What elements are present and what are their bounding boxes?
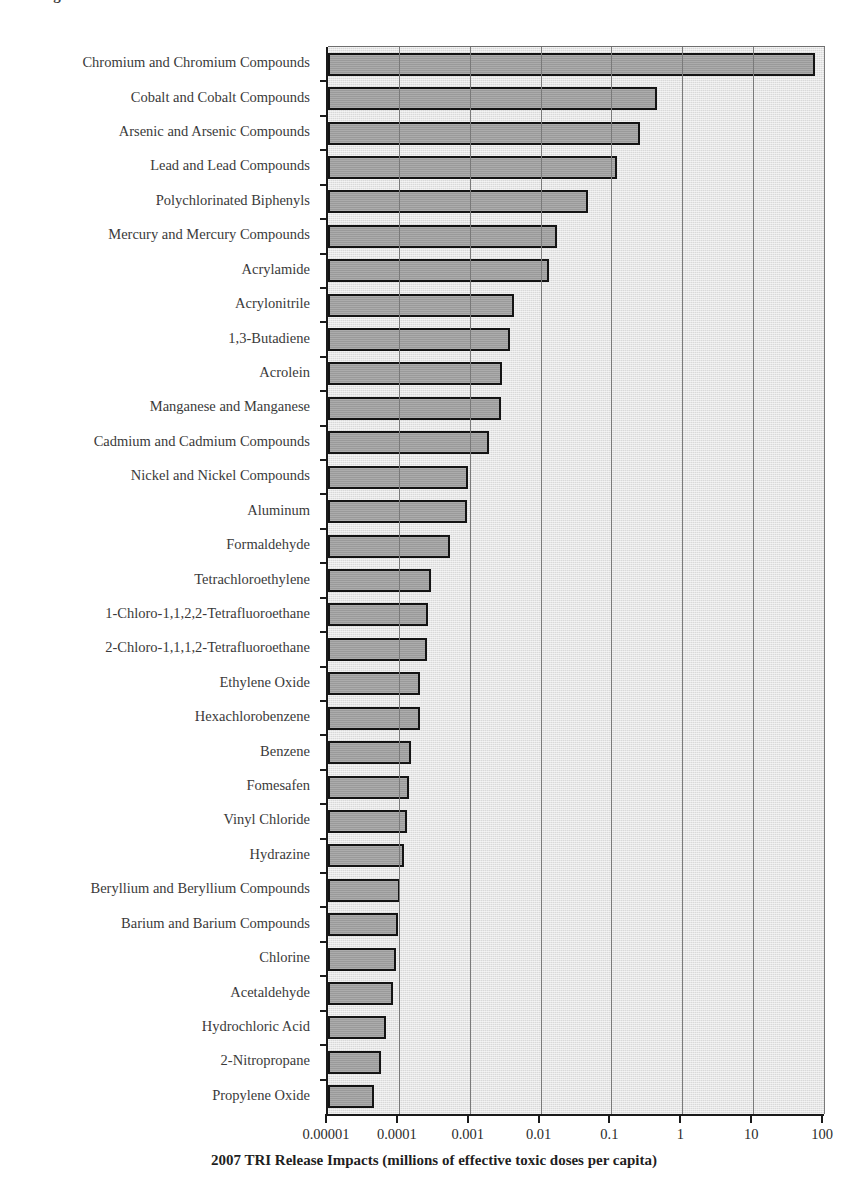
x-axis-tick-label: 10 xyxy=(744,1126,759,1143)
bar xyxy=(328,259,549,282)
category-axis-tick xyxy=(320,287,326,289)
gridline xyxy=(470,47,471,1114)
category-label: Propylene Oxide xyxy=(212,1088,310,1103)
gridline xyxy=(399,47,400,1114)
bar-row xyxy=(328,431,824,454)
bar-row xyxy=(328,466,824,489)
bar-row xyxy=(328,844,824,867)
bar-row xyxy=(328,225,824,248)
x-axis-tick xyxy=(821,1114,823,1123)
bar-row xyxy=(328,1016,824,1039)
bar-row xyxy=(328,810,824,833)
x-axis-title: 2007 TRI Release Impacts (millions of ef… xyxy=(0,1152,868,1169)
bar xyxy=(328,122,640,145)
bar-row xyxy=(328,603,824,626)
bar xyxy=(328,1085,374,1108)
bar xyxy=(328,879,400,902)
category-label: Formaldehyde xyxy=(226,537,310,552)
bar xyxy=(328,672,420,695)
category-label: Ethylene Oxide xyxy=(219,675,310,690)
category-axis-tick xyxy=(320,253,326,255)
category-axis-tick xyxy=(320,1044,326,1046)
bar xyxy=(328,948,396,971)
x-axis-tick xyxy=(467,1114,469,1123)
bar-row xyxy=(328,707,824,730)
category-label: Vinyl Chloride xyxy=(223,812,310,827)
category-label: Fomesafen xyxy=(246,778,310,793)
bar-row xyxy=(328,982,824,1005)
category-axis-tick xyxy=(320,906,326,908)
bar xyxy=(328,844,404,867)
bar xyxy=(328,603,428,626)
bar xyxy=(328,913,398,936)
bar xyxy=(328,53,815,76)
category-axis-tick xyxy=(320,528,326,530)
x-axis-tick xyxy=(750,1114,752,1123)
category-axis-tick xyxy=(320,769,326,771)
category-label: Tetrachloroethylene xyxy=(194,572,310,587)
gridline xyxy=(753,47,754,1114)
bar xyxy=(328,397,501,420)
x-axis-tick xyxy=(679,1114,681,1123)
category-label: Manganese and Manganese xyxy=(150,399,310,414)
bar-row xyxy=(328,362,824,385)
bar-row xyxy=(328,190,824,213)
bar-row xyxy=(328,569,824,592)
category-label: 1-Chloro-1,1,2,2-Tetrafluoroethane xyxy=(105,606,310,621)
bar xyxy=(328,294,514,317)
category-axis-tick xyxy=(320,115,326,117)
category-axis-tick xyxy=(320,597,326,599)
bar xyxy=(328,776,409,799)
category-axis-tick xyxy=(320,218,326,220)
category-label: Chlorine xyxy=(259,950,310,965)
category-label: Polychlorinated Biphenyls xyxy=(156,193,310,208)
x-axis-tick-label: 0.01 xyxy=(526,1126,551,1143)
bar-row xyxy=(328,776,824,799)
category-label: Chromium and Chromium Compounds xyxy=(82,55,310,70)
bar-row xyxy=(328,1051,824,1074)
bar-row xyxy=(328,535,824,558)
bar-row xyxy=(328,879,824,902)
category-axis-tick xyxy=(320,425,326,427)
bar xyxy=(328,156,617,179)
bar xyxy=(328,810,407,833)
bar xyxy=(328,431,489,454)
x-axis-tick-label: 0.00001 xyxy=(302,1126,349,1143)
x-axis-tick xyxy=(396,1114,398,1123)
bar xyxy=(328,1051,381,1074)
bar-row xyxy=(328,156,824,179)
category-axis-tick xyxy=(320,80,326,82)
category-label: Cobalt and Cobalt Compounds xyxy=(131,90,310,105)
category-label: Lead and Lead Compounds xyxy=(150,158,310,173)
bar xyxy=(328,707,420,730)
category-axis-tick xyxy=(320,390,326,392)
bar-row xyxy=(328,328,824,351)
gridline xyxy=(682,47,683,1114)
gridline xyxy=(824,47,825,1114)
category-label: 2-Nitropropane xyxy=(221,1053,310,1068)
category-label: Hexachlorobenzene xyxy=(195,709,310,724)
plot-area xyxy=(326,47,824,1116)
category-axis-tick xyxy=(320,803,326,805)
bar xyxy=(328,87,657,110)
category-axis-tick xyxy=(320,838,326,840)
category-label: 2-Chloro-1,1,1,2-Tetrafluoroethane xyxy=(105,640,310,655)
x-axis-tick-label: 0.001 xyxy=(451,1126,484,1143)
bar-row xyxy=(328,87,824,110)
category-label: Benzene xyxy=(260,744,310,759)
bar xyxy=(328,190,588,213)
x-axis-tick xyxy=(325,1114,327,1123)
bar-row xyxy=(328,122,824,145)
category-axis-tick xyxy=(320,149,326,151)
category-axis-tick xyxy=(320,975,326,977)
category-axis-labels: Chromium and Chromium CompoundsCobalt an… xyxy=(0,47,320,1114)
bar-row xyxy=(328,913,824,936)
category-label: Cadmium and Cadmium Compounds xyxy=(94,434,310,449)
bar-row xyxy=(328,741,824,764)
category-axis-tick xyxy=(320,666,326,668)
bar-row xyxy=(328,1085,824,1108)
bar-row xyxy=(328,397,824,420)
category-axis-tick xyxy=(320,321,326,323)
bar xyxy=(328,225,557,248)
x-axis-tick xyxy=(538,1114,540,1123)
